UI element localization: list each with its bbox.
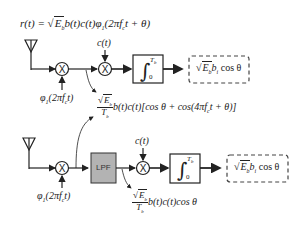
mixer-1-bottom: X (56, 162, 69, 175)
mixer-output-equation: √EbTbb(t)c(t)[cos θ + cos(4πfct + θ)] (97, 96, 236, 119)
svg-text:X: X (59, 163, 66, 174)
mixer-1-top: X (56, 63, 69, 76)
lpf-label: LPF (96, 163, 111, 172)
mixer-2-top: X (99, 63, 112, 76)
code-input-bottom: c(t) (135, 136, 149, 146)
carrier-input-top: φ1(2πfct) (40, 93, 73, 105)
carrier-input-bottom: φ1(2πfct) (37, 191, 70, 203)
lpf-output-equation: √EbTbb(t)c(t)cos θ (132, 191, 197, 214)
code-input-top: c(t) (97, 38, 111, 48)
antenna-icon-bottom (23, 138, 35, 169)
svg-text:X: X (59, 64, 66, 75)
output-bottom: √Ebbi cos θ (234, 162, 279, 174)
integrator-upper-top: Tb (150, 57, 156, 65)
output-top: √Ebbi cos θ (196, 63, 241, 75)
integrator-lower-bottom: 0 (186, 174, 190, 181)
svg-text:X: X (102, 64, 109, 75)
integrator-upper-bottom: Tb (187, 156, 193, 164)
antenna-icon-top (25, 40, 37, 70)
received-signal-equation: r(t) = √Ebb(t)c(t)φ1(2πfct + θ) (20, 18, 150, 31)
integrator-lower-top: 0 (149, 74, 153, 81)
mixer-2-bottom: X (137, 162, 150, 175)
svg-text:X: X (140, 163, 147, 174)
